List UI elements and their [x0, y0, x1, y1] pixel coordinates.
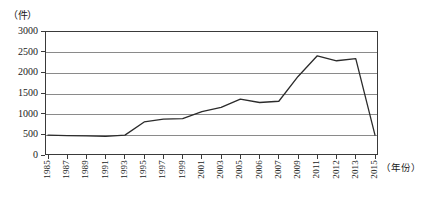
x-axis-tick-label: 2015 [370, 160, 379, 179]
x-axis-tick-mark [221, 155, 222, 159]
y-axis-tick-mark [41, 113, 45, 114]
x-axis-tick-label: 2011 [312, 160, 321, 178]
x-axis-tick-mark [278, 155, 279, 159]
line-chart: （件） 050010001500200025003000 19851987198… [0, 0, 432, 202]
gridline [46, 114, 377, 115]
x-axis-tick-label: 2013 [351, 160, 360, 179]
x-axis-tick-label: 2005 [235, 160, 244, 179]
x-axis-tick-label: 1993 [120, 160, 129, 179]
x-axis-tick-label: 1989 [81, 160, 90, 179]
x-axis-tick-mark [124, 155, 125, 159]
y-axis-tick-label: 2000 [0, 67, 38, 77]
y-axis-tick-mark [41, 134, 45, 135]
gridline [46, 94, 377, 95]
x-axis-tick-mark [105, 155, 106, 159]
x-axis-tick-mark [355, 155, 356, 159]
x-axis-tick-label: 2006 [255, 160, 264, 179]
x-axis-tick-mark [317, 155, 318, 159]
gridline [46, 73, 377, 74]
y-axis-tick-mark [41, 93, 45, 94]
x-axis-tick-label: 1999 [178, 160, 187, 179]
x-axis-tick-label: 2001 [197, 160, 206, 179]
x-axis-tick-mark [67, 155, 68, 159]
x-axis-tick-label: 1991 [101, 160, 110, 179]
y-axis-tick-mark [41, 155, 45, 156]
gridline [46, 52, 377, 53]
y-axis-tick-label: 3000 [0, 26, 38, 36]
y-axis-tick-label: 500 [0, 129, 38, 139]
x-axis-tick-label: 2007 [274, 160, 283, 179]
y-axis-tick-mark [41, 51, 45, 52]
x-axis-tick-label: 1997 [158, 160, 167, 179]
x-axis-tick-mark [375, 155, 376, 159]
y-axis-tick-label: 1500 [0, 88, 38, 98]
x-axis-tick-mark [48, 155, 49, 159]
x-axis-tick-mark [259, 155, 260, 159]
plot-area [45, 31, 378, 155]
x-axis-tick-label: 2003 [216, 160, 225, 179]
x-axis-tick-mark [163, 155, 164, 159]
x-axis-tick-label: 2009 [293, 160, 302, 179]
y-axis-title: （件） [8, 7, 37, 22]
x-axis-tick-mark [86, 155, 87, 159]
y-axis-tick-label: 2500 [0, 47, 38, 57]
x-axis-title: （年份） [381, 160, 421, 174]
y-axis-tick-mark [41, 31, 45, 32]
x-axis-tick-label: 1995 [139, 160, 148, 179]
x-axis-tick-mark [336, 155, 337, 159]
x-axis-tick-label: 1987 [62, 160, 71, 179]
x-axis-tick-mark [182, 155, 183, 159]
x-axis-tick-mark [298, 155, 299, 159]
x-axis-tick-mark [201, 155, 202, 159]
x-axis-tick-mark [240, 155, 241, 159]
x-axis-tick-label: 2012 [332, 160, 341, 179]
y-axis-tick-label: 1000 [0, 109, 38, 119]
x-axis-tick-mark [144, 155, 145, 159]
y-axis-tick-mark [41, 72, 45, 73]
x-axis-tick-label: 1985 [43, 160, 52, 179]
y-axis-tick-label: 0 [0, 150, 38, 160]
gridline [46, 135, 377, 136]
